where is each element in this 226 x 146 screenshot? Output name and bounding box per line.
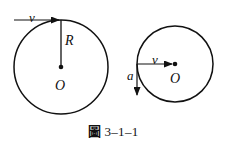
right-acceleration-label: a bbox=[127, 69, 134, 82]
left-radius-label: R bbox=[65, 34, 74, 48]
left-center-label: O bbox=[55, 79, 65, 93]
right-center-label: O bbox=[170, 72, 180, 86]
right-velocity-label: v bbox=[152, 53, 158, 66]
figure-caption-number: 3–1–1 bbox=[105, 124, 139, 139]
figure-caption: 圖3–1–1 bbox=[0, 121, 226, 140]
right-center-dot bbox=[173, 62, 178, 67]
figure-caption-cjk: 圖 bbox=[88, 124, 101, 139]
right-wheel-group bbox=[137, 26, 213, 102]
figure-3-1-1: v R O v a O 圖3–1–1 bbox=[0, 0, 226, 146]
left-center-dot bbox=[59, 65, 64, 70]
left-velocity-label: v bbox=[29, 11, 35, 24]
left-wheel-group bbox=[14, 20, 108, 114]
